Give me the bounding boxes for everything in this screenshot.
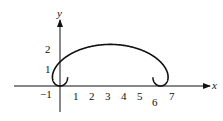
x-tick-3: 3 bbox=[105, 91, 111, 102]
y-tick-1: 1 bbox=[45, 64, 51, 75]
x-tick-1: 1 bbox=[73, 91, 79, 102]
curve bbox=[52, 44, 168, 86]
x-tick-4: 4 bbox=[121, 91, 127, 102]
x-tick-6: 6 bbox=[152, 97, 158, 108]
figure: y x 2 1 −1 1 2 3 4 5 6 7 bbox=[0, 0, 223, 121]
x-tick-7: 7 bbox=[169, 91, 175, 102]
y-axis-label: y bbox=[57, 8, 62, 19]
x-tick-2: 2 bbox=[89, 91, 95, 102]
x-tick-m1: −1 bbox=[40, 89, 52, 100]
y-tick-2: 2 bbox=[45, 44, 51, 55]
x-axis-label: x bbox=[212, 80, 217, 91]
x-tick-5: 5 bbox=[137, 91, 143, 102]
plot-area bbox=[0, 0, 223, 121]
